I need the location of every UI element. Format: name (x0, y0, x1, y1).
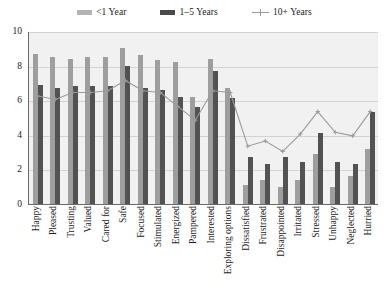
line-marker (53, 97, 57, 101)
line-marker (71, 90, 75, 94)
x-tick-label: Neglected (347, 206, 357, 245)
legend-line-marker-icon (252, 9, 269, 16)
legend-swatch-under-1-year-icon (77, 10, 92, 15)
line-path (38, 80, 371, 151)
x-tick-label: Safe (119, 206, 129, 223)
line-marker (88, 90, 92, 94)
chart-legend: <1 Year 1–5 Years 10+ Years (0, 4, 389, 20)
y-tick-label-2: 2 (17, 166, 22, 176)
x-tick-label: Disappointed (277, 206, 287, 257)
x-tick-label: Exploring options (224, 206, 234, 274)
x-tick-label: Stressed (312, 206, 322, 238)
line-marker (36, 94, 40, 98)
y-tick-label-6: 6 (17, 96, 22, 106)
x-axis: HappyPleasedTrustingValuedCared forSafeF… (28, 206, 378, 297)
x-tick-label: Energized (172, 206, 182, 244)
x-tick-label: Pampered (189, 206, 199, 244)
y-tick-label-0: 0 (17, 200, 22, 210)
x-tick-label: Unhappy (329, 206, 339, 241)
x-tick-label: Irritated (294, 206, 304, 237)
x-tick-label: Happy (32, 206, 42, 231)
x-tick-label: Dissatisfied (242, 206, 252, 251)
y-tick-label-8: 8 (17, 62, 22, 72)
x-tick-label: Trusting (67, 206, 77, 238)
legend-label-10-plus-years: 10+ Years (273, 7, 312, 17)
chart-container: <1 Year 1–5 Years 10+ Years 0246810 Happ… (0, 0, 389, 297)
x-tick-label: Frustrated (259, 206, 269, 245)
plot-area (28, 32, 378, 205)
line-marker (228, 90, 232, 94)
x-tick-label: Focused (137, 206, 147, 238)
legend-label-under-1-year: <1 Year (96, 7, 126, 17)
y-axis: 0246810 (0, 32, 26, 205)
x-tick-label: Valued (84, 206, 94, 232)
line-marker (246, 144, 250, 148)
x-tick-label: Pleased (49, 206, 59, 235)
legend-label-1-5-years: 1–5 Years (179, 7, 217, 17)
legend-item-1-5-years[interactable]: 1–5 Years (160, 7, 217, 17)
x-tick-label: Cared for (102, 206, 112, 242)
legend-item-10-plus-years[interactable]: 10+ Years (252, 7, 312, 17)
x-tick-label: Stimulated (154, 206, 164, 247)
legend-item-under-1-year[interactable]: <1 Year (77, 7, 126, 17)
y-tick-label-4: 4 (17, 131, 22, 141)
y-tick-label-10: 10 (13, 27, 23, 37)
x-tick-label: Hurried (364, 206, 374, 236)
legend-swatch-1-5-years-icon (160, 10, 175, 15)
line-series-10-plus-years (29, 32, 378, 205)
x-tick-label: Interested (207, 206, 217, 243)
